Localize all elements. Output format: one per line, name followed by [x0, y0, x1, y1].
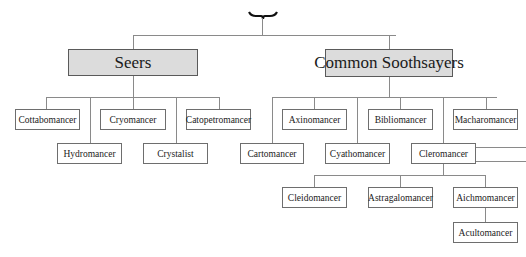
connector — [476, 147, 526, 148]
node-cottabomancer[interactable]: Cottabomancer — [15, 109, 80, 130]
connector — [400, 97, 401, 109]
connector — [133, 35, 134, 49]
connector — [314, 97, 315, 109]
node-cleidomancer[interactable]: Cleidomancer — [282, 187, 347, 208]
connector — [443, 97, 444, 143]
node-hydromancer[interactable]: Hydromancer — [57, 143, 122, 164]
connector — [443, 164, 444, 175]
connector — [485, 175, 486, 187]
node-cryomancer[interactable]: Cryomancer — [100, 109, 166, 130]
connector — [272, 97, 273, 143]
connector — [476, 161, 526, 162]
node-axinomancer[interactable]: Axinomancer — [282, 109, 347, 130]
node-macharomancer[interactable]: Macharomancer — [453, 109, 518, 130]
connector — [133, 97, 134, 109]
connector — [133, 76, 134, 97]
connector — [272, 97, 497, 98]
node-aichmomancer[interactable]: Aichmomancer — [453, 187, 518, 208]
connector — [262, 18, 263, 35]
group-seers[interactable]: Seers — [68, 49, 198, 76]
node-cyathomancer[interactable]: Cyathomancer — [325, 143, 390, 164]
connector — [389, 77, 390, 97]
connector — [485, 208, 486, 222]
node-astragalomancer[interactable]: Astragalomancer — [368, 187, 433, 208]
group-common-soothsayers[interactable]: Common Soothsayers — [325, 49, 453, 77]
connector — [133, 35, 396, 36]
node-bibliomancer[interactable]: Bibliomancer — [368, 109, 433, 130]
brace-icon — [248, 10, 278, 20]
connector — [46, 97, 47, 109]
node-crystalist[interactable]: Crystalist — [143, 143, 208, 164]
node-cleromancer[interactable]: Cleromancer — [411, 143, 476, 164]
connector — [486, 97, 487, 109]
node-catopetromancer[interactable]: Catopetromancer — [186, 109, 251, 130]
connector — [314, 175, 315, 187]
node-cartomancer[interactable]: Cartomancer — [240, 143, 304, 164]
connector — [400, 175, 401, 187]
connector — [219, 97, 220, 109]
connector — [357, 97, 358, 143]
connector — [389, 35, 390, 49]
node-acultomancer[interactable]: Acultomancer — [453, 222, 518, 243]
